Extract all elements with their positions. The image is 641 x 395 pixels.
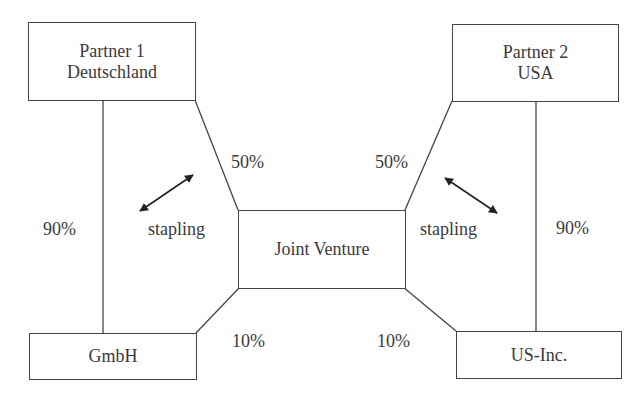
node-partner2: Partner 2 USA <box>452 24 619 102</box>
node-gmbh: GmbH <box>29 333 197 380</box>
node-us-inc-label: US-Inc. <box>511 345 568 366</box>
node-partner2-line2: USA <box>517 63 553 84</box>
label-usinc-jv-pct: 10% <box>377 331 410 351</box>
node-joint-venture-label: Joint Venture <box>274 239 369 260</box>
node-partner1: Partner 1 Deutschland <box>28 22 196 101</box>
stapling-arrow-left-icon <box>140 175 193 211</box>
ownership-diagram: Partner 1 Deutschland Partner 2 USA Join… <box>0 0 641 395</box>
label-partner1-gmbh-pct: 90% <box>43 219 76 239</box>
node-joint-venture: Joint Venture <box>238 210 406 289</box>
label-partner2-usinc-pct: 90% <box>556 218 589 238</box>
node-gmbh-label: GmbH <box>89 346 138 367</box>
label-stapling-right: stapling <box>420 219 477 239</box>
line-usinc-jv <box>403 287 456 331</box>
node-partner2-line1: Partner 2 <box>503 42 568 63</box>
node-partner1-line1: Partner 1 <box>79 41 144 62</box>
label-gmbh-jv-pct: 10% <box>232 331 265 351</box>
line-gmbh-jv <box>196 288 239 333</box>
label-partner2-jv-pct: 50% <box>375 152 408 172</box>
stapling-arrow-right-icon <box>445 178 497 213</box>
line-partner2-jv <box>405 101 452 210</box>
node-partner1-line2: Deutschland <box>67 62 157 83</box>
node-us-inc: US-Inc. <box>456 331 622 379</box>
label-stapling-left: stapling <box>148 219 205 239</box>
label-partner1-jv-pct: 50% <box>231 152 264 172</box>
